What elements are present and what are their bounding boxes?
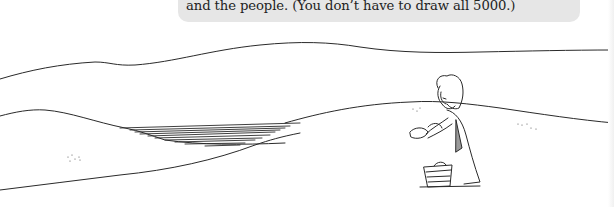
figure-with-bread-icon [410, 75, 480, 187]
foreground-hill-line [0, 133, 300, 190]
page-edge-shadow [608, 0, 614, 207]
coloring-illustration [0, 0, 614, 207]
far-hill-line [0, 43, 614, 79]
lake-icon [120, 123, 300, 146]
right-hill-line [285, 101, 614, 123]
